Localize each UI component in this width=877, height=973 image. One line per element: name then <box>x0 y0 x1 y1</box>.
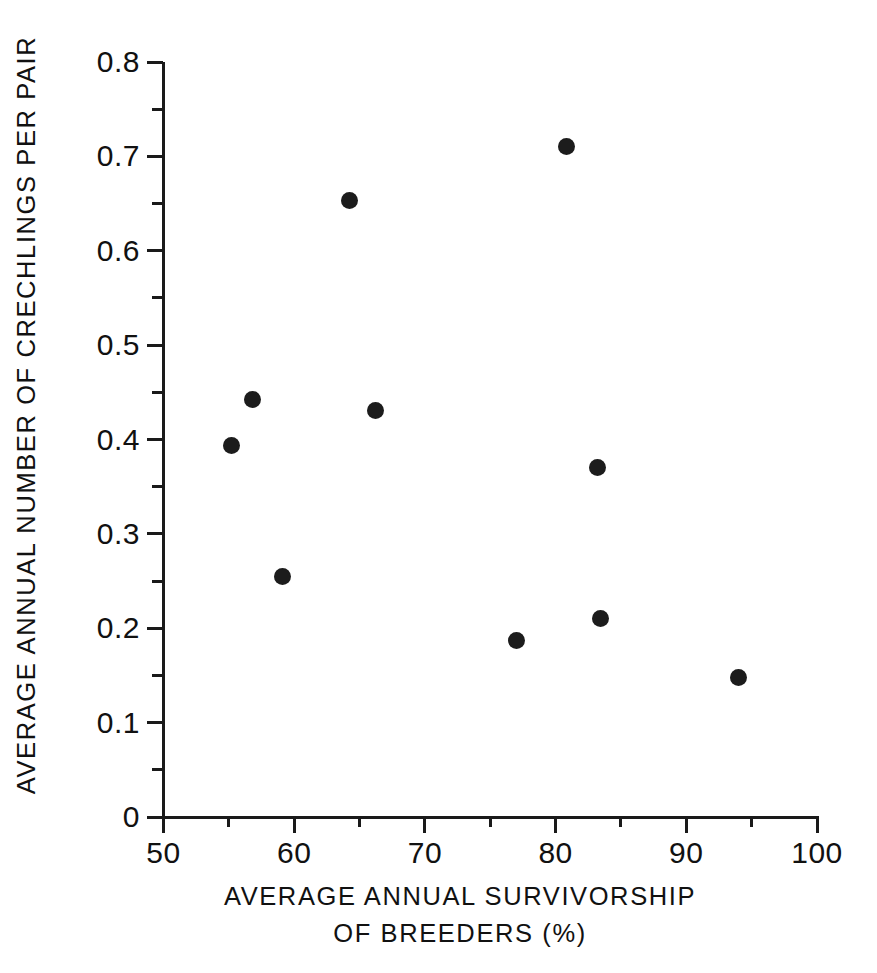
scatter-plot-figure: AVERAGE ANNUAL NUMBER OF CRECHLINGS PER … <box>0 0 877 973</box>
x-axis-tick-label: 70 <box>365 836 485 870</box>
x-axis-tick-label: 50 <box>104 836 224 870</box>
y-axis-tick-major <box>147 344 163 347</box>
x-axis-tick-label: 100 <box>757 836 877 870</box>
y-axis-tick-label: 0.3 <box>0 517 140 551</box>
x-axis-title-line2: OF BREEDERS (%) <box>140 915 780 952</box>
x-axis-title-line1: AVERAGE ANNUAL SURVIVORSHIP <box>224 882 696 910</box>
x-axis-tick-label: 90 <box>626 836 746 870</box>
x-axis-tick-minor <box>619 816 622 827</box>
y-axis-tick-label: 0.4 <box>0 423 140 457</box>
y-axis-tick-label: 0.6 <box>0 234 140 268</box>
y-axis-tick-minor <box>152 108 163 111</box>
scatter-point <box>508 632 525 649</box>
scatter-point <box>341 192 358 209</box>
x-axis-tick-major <box>554 816 557 833</box>
x-axis-tick-major <box>293 816 296 833</box>
x-axis-tick-label: 80 <box>496 836 616 870</box>
x-axis-tick-minor <box>750 816 753 827</box>
y-axis-tick-minor <box>152 768 163 771</box>
y-axis-tick-minor <box>152 674 163 677</box>
scatter-point <box>589 459 606 476</box>
x-axis-tick-major <box>685 816 688 833</box>
y-axis-tick-major <box>147 61 163 64</box>
y-axis-tick-label: 0 <box>0 800 140 834</box>
scatter-point <box>367 402 384 419</box>
y-axis-tick-major <box>147 155 163 158</box>
y-axis-tick-minor <box>152 391 163 394</box>
y-axis-tick-minor <box>152 202 163 205</box>
y-axis-tick-minor <box>152 296 163 299</box>
scatter-point <box>223 437 240 454</box>
y-axis-tick-major <box>147 438 163 441</box>
y-axis-tick-label: 0.2 <box>0 611 140 645</box>
y-axis-tick-label: 0.5 <box>0 328 140 362</box>
x-axis-tick-label: 60 <box>234 836 354 870</box>
x-axis-tick-minor <box>358 816 361 827</box>
y-axis-tick-major <box>147 249 163 252</box>
scatter-point <box>730 669 747 686</box>
y-axis-tick-major <box>147 532 163 535</box>
scatter-point <box>558 138 575 155</box>
scatter-point <box>592 610 609 627</box>
plot-area: 00.10.20.30.40.50.60.70.85060708090100 <box>0 0 877 973</box>
y-axis-tick-label: 0.7 <box>0 139 140 173</box>
x-axis-tick-major <box>162 816 165 833</box>
y-axis-tick-major <box>147 721 163 724</box>
scatter-point <box>244 391 261 408</box>
x-axis-tick-minor <box>227 816 230 827</box>
x-axis-title: AVERAGE ANNUAL SURVIVORSHIP OF BREEDERS … <box>140 878 780 952</box>
y-axis-tick-label: 0.8 <box>0 45 140 79</box>
y-axis-tick-label: 0.1 <box>0 706 140 740</box>
y-axis-tick-minor <box>152 580 163 583</box>
y-axis-tick-major <box>147 627 163 630</box>
x-axis-tick-major <box>816 816 819 833</box>
y-axis-tick-minor <box>152 485 163 488</box>
x-axis-tick-major <box>423 816 426 833</box>
x-axis-tick-minor <box>489 816 492 827</box>
y-axis-tick-major <box>147 816 163 819</box>
scatter-point <box>274 568 291 585</box>
